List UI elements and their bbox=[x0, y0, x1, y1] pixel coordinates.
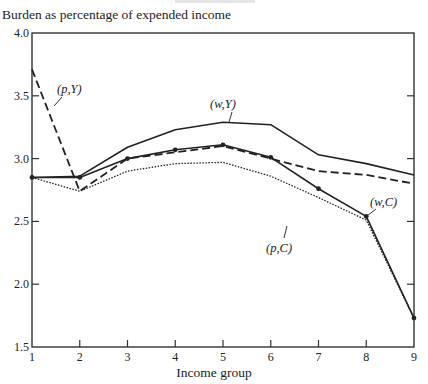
annotation-leader-line bbox=[284, 226, 287, 238]
y-tick-label: 1.5 bbox=[14, 340, 29, 354]
data-point-marker bbox=[412, 316, 417, 321]
x-axis-label: Income group bbox=[0, 365, 428, 381]
line-chart: 1.52.02.53.03.54.0123456789(p,Y)(w,Y)(p,… bbox=[0, 0, 428, 384]
data-point-marker bbox=[268, 155, 273, 160]
annotation-leader-line bbox=[229, 112, 232, 122]
data-point-marker bbox=[316, 186, 321, 191]
data-point-marker bbox=[125, 156, 130, 161]
x-tick-label: 2 bbox=[77, 350, 83, 364]
y-tick-label: 2.0 bbox=[14, 277, 29, 291]
x-tick-label: 9 bbox=[411, 350, 417, 364]
y-tick-label: 3.0 bbox=[14, 152, 29, 166]
annotation-leader-line bbox=[54, 97, 62, 106]
plot-frame bbox=[32, 33, 414, 347]
data-point-marker bbox=[221, 142, 226, 147]
series-annotation-wy: (w,Y) bbox=[210, 97, 236, 111]
x-tick-label: 3 bbox=[125, 350, 131, 364]
annotation-leader-line bbox=[367, 209, 376, 216]
x-tick-label: 6 bbox=[268, 350, 274, 364]
y-tick-label: 2.5 bbox=[14, 214, 29, 228]
series-annotation-py: (p,Y) bbox=[57, 82, 82, 96]
series-annotation-pc: (p,C) bbox=[266, 241, 292, 255]
y-tick-label: 3.5 bbox=[14, 89, 29, 103]
x-tick-label: 1 bbox=[29, 350, 35, 364]
series-annotation-wc: (w,C) bbox=[370, 195, 397, 209]
series-line-wy bbox=[32, 122, 414, 177]
data-point-marker bbox=[173, 147, 178, 152]
x-tick-label: 7 bbox=[316, 350, 322, 364]
y-tick-label: 4.0 bbox=[14, 26, 29, 40]
x-tick-label: 8 bbox=[363, 350, 369, 364]
x-tick-label: 5 bbox=[220, 350, 226, 364]
series-line-pc bbox=[32, 162, 414, 318]
data-point-marker bbox=[77, 175, 82, 180]
x-tick-label: 4 bbox=[172, 350, 178, 364]
